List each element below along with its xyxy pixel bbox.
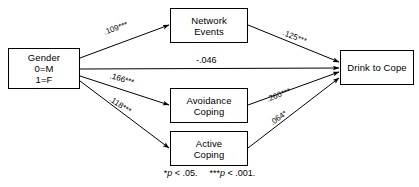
footnote-value-triple: < .001. [225,168,255,178]
node-active-coping-line-2: Coping [194,149,225,160]
node-network-events: Network Events [170,8,248,43]
node-avoidance-coping-line-2: Coping [194,106,225,117]
arrow-network-events-to-drink-to-cope [248,25,339,62]
node-gender-line-2: 0=M [34,63,53,74]
node-avoidance-coping-line-1: Avoidance [186,95,231,106]
node-avoidance-coping: Avoidance Coping [170,88,248,123]
node-drink-to-cope: Drink to Cope [340,50,414,85]
path-label-gender-to-drink-to-cope-direct: -.046 [196,56,217,65]
node-gender-line-3: 1=F [36,74,53,85]
node-network-events-line-1: Network [191,15,227,26]
footnote-value-single: < .05. [172,168,197,178]
node-network-events-line-2: Events [194,26,224,37]
node-gender: Gender 0=M 1=F [8,48,80,89]
node-active-coping: Active Coping [170,131,248,166]
arrow-gender-to-network-events [80,25,169,58]
footnote-star-triple: *** [210,168,221,178]
node-drink-to-cope-line-1: Drink to Cope [347,62,406,73]
path-diagram-figure: Gender 0=M 1=F Network Events Avoidance … [0,0,419,187]
node-active-coping-line-1: Active [196,138,222,149]
arrow-gender-to-active-coping [80,81,169,148]
node-gender-line-1: Gender [28,52,60,63]
significance-footnote: *p < .05.***p < .001. [0,168,419,178]
arrow-gender-to-drink-to-cope-direct [80,68,339,69]
